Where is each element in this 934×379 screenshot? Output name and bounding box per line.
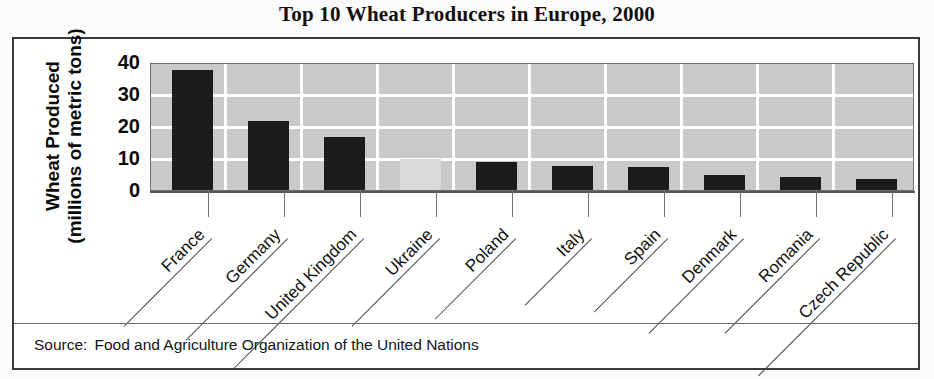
bar-france — [172, 70, 213, 190]
vgridline-6 — [604, 64, 607, 190]
bar-italy — [552, 166, 593, 190]
y-axis-title-line-2: (millions of metric tons) — [64, 6, 86, 266]
y-tick-label-30: 30 — [98, 83, 140, 106]
bar-denmark — [704, 175, 745, 190]
y-tick-label-20: 20 — [98, 115, 140, 138]
x-tick-romania — [816, 191, 817, 217]
x-tick-united-kingdom — [360, 191, 361, 217]
gridline-30 — [151, 94, 913, 97]
category-label-italy: Italy — [510, 223, 592, 305]
y-tick-label-40: 40 — [98, 51, 140, 74]
source-label: Source: — [34, 336, 87, 353]
x-tick-poland — [512, 191, 513, 217]
vgridline-4 — [452, 64, 455, 190]
chart-frame: Wheat Produced (millions of metric tons)… — [12, 37, 920, 370]
x-tick-czech-republic — [892, 191, 893, 217]
vgridline-8 — [756, 64, 759, 190]
vgridline-7 — [680, 64, 683, 190]
bar-romania — [780, 177, 821, 190]
chart-title: Top 10 Wheat Producers in Europe, 2000 — [0, 2, 934, 27]
bar-spain — [628, 167, 669, 190]
source-divider — [14, 323, 918, 324]
bar-germany — [248, 121, 289, 190]
source-text: Food and Agriculture Organization of the… — [94, 336, 478, 353]
source-note: Source:Food and Agriculture Organization… — [34, 336, 479, 354]
bar-poland — [476, 162, 517, 190]
y-axis-title-line-1: Wheat Produced — [42, 61, 63, 211]
bar-czech-republic — [856, 179, 897, 190]
vgridline-9 — [832, 64, 835, 190]
x-axis-line — [150, 191, 915, 193]
vgridline-2 — [300, 64, 303, 190]
vgridline-3 — [376, 64, 379, 190]
category-label-czech-republic: Czech Republic — [743, 223, 896, 376]
plot-area — [150, 63, 914, 191]
x-tick-france — [208, 191, 209, 217]
y-axis-title: Wheat Produced (millions of metric tons) — [42, 6, 88, 266]
vgridline-1 — [224, 64, 227, 190]
x-tick-germany — [284, 191, 285, 217]
x-tick-italy — [588, 191, 589, 217]
bar-ukraine — [400, 159, 441, 190]
y-tick-label-10: 10 — [98, 147, 140, 170]
x-tick-ukraine — [436, 191, 437, 217]
y-tick-label-0: 0 — [98, 179, 140, 202]
x-tick-spain — [664, 191, 665, 217]
bar-united-kingdom — [324, 137, 365, 190]
vgridline-5 — [528, 64, 531, 190]
x-tick-denmark — [740, 191, 741, 217]
